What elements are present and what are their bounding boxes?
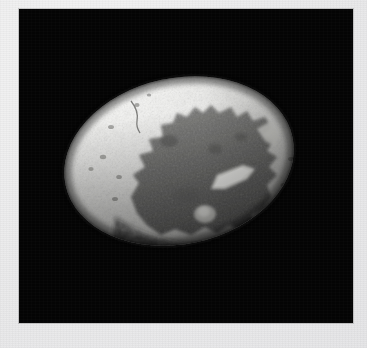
specimen-illustration bbox=[19, 9, 353, 323]
specimen-body bbox=[19, 9, 353, 323]
specimen-container bbox=[19, 9, 353, 323]
scanned-photograph-page: ovoid egg-shaped specimen photographed a… bbox=[0, 0, 367, 348]
photographic-plate bbox=[19, 9, 353, 323]
